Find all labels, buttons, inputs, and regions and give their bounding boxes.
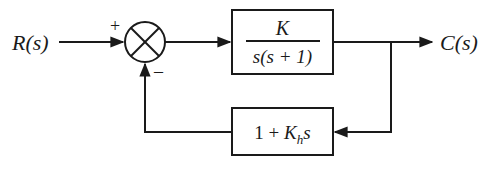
feedback-prefix: 1 + [254, 122, 284, 143]
block-diagram: R(s) + – K s(s + 1) C(s) 1 + Khs [0, 0, 496, 175]
feedback-block-label: 1 + Khs [254, 122, 310, 147]
forward-block-numerator: K [275, 17, 291, 39]
feedback-block: 1 + Khs [232, 108, 333, 155]
feedback-suffix: s [303, 122, 310, 143]
forward-block: K s(s + 1) [232, 10, 333, 74]
summing-junction [125, 22, 165, 62]
input-label: R(s) [11, 30, 49, 55]
minus-sign: – [153, 61, 164, 81]
feedback-branch-arrow [335, 42, 391, 132]
output-label: C(s) [440, 30, 478, 55]
plus-sign: + [110, 16, 120, 36]
forward-block-denominator: s(s + 1) [253, 46, 312, 68]
